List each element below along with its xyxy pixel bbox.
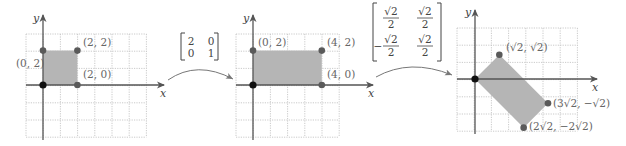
matrix-entry: 0 [208,35,215,47]
fraction-denominator: 2 [388,18,395,30]
vertex-label: (2, 2) [83,36,111,48]
matrix-fraction-entry: √22 [417,5,433,30]
matrix-fraction-entry: √22 [417,33,433,58]
vertex-point [520,124,527,131]
scale-matrix: 2001 [168,33,233,80]
origin-point [471,75,478,82]
x-axis-label: x [160,87,167,100]
vertex-label: (0, 2) [16,57,44,69]
coordinate-panels: xy(2, 0)(2, 2)(0, 2)xy(4, 0)(4, 2)(0, 2)… [16,6,610,140]
rotation-matrix: √22√22√22−√22 [373,3,452,77]
vertex-point [496,51,503,58]
transformed-region [253,51,322,85]
y-axis-label: y [242,12,250,25]
left-bracket [373,3,377,61]
x-axis-label: x [368,87,375,100]
transform-arrow-icon [376,67,452,77]
linear-transformation-figure: xy(2, 0)(2, 2)(0, 2)xy(4, 0)(4, 2)(0, 2)… [0,0,626,146]
panel-original-square: xy(2, 0)(2, 2)(0, 2) [16,12,167,140]
minus-sign: − [374,40,383,52]
vertex-label: (4, 2) [327,36,355,48]
y-axis-label: y [464,6,472,19]
right-bracket [437,3,441,61]
vertex-label: (√2, √2) [506,41,548,53]
matrix-entry: 2 [188,35,195,47]
panel-stretched-rectangle: xy(4, 0)(4, 2)(0, 2) [236,12,375,140]
fraction-numerator: √2 [384,33,397,45]
vertex-point [319,82,326,89]
vertex-label: (3√2, −√2) [553,97,610,109]
matrix-fraction-entry: √22− [374,33,399,58]
fraction-numerator: √2 [418,5,431,17]
vertex-point [319,47,326,54]
fraction-numerator: √2 [418,33,431,45]
matrix-entry: 1 [208,47,215,59]
vertex-point [250,47,257,54]
vertex-label: (2, 0) [83,68,111,80]
transform-arrow-icon [168,70,233,80]
vertex-point [74,47,81,54]
fraction-denominator: 2 [422,46,429,58]
transformed-region [475,55,548,128]
fraction-denominator: 2 [422,18,429,30]
origin-point [249,81,256,88]
transformation-diagram: xy(2, 0)(2, 2)(0, 2)xy(4, 0)(4, 2)(0, 2)… [0,0,626,146]
vertex-label: (2√2, −2√2) [529,120,593,132]
right-bracket [214,33,218,60]
vertex-point [74,82,81,89]
transformed-region [43,51,77,85]
vertex-point [545,100,552,107]
left-bracket [181,33,185,60]
vertex-label: (4, 0) [327,68,355,80]
origin-point [39,81,46,88]
panel-rotated-rectangle: xy(√2, √2)(3√2, −√2)(2√2, −2√2) [457,6,610,134]
fraction-numerator: √2 [384,5,397,17]
vertex-point [40,47,47,54]
x-axis-label: x [592,81,599,94]
fraction-denominator: 2 [388,46,395,58]
vertex-label: (0, 2) [258,36,286,48]
matrix-entry: 0 [188,47,195,59]
matrix-fraction-entry: √22 [383,5,399,30]
y-axis-label: y [32,12,40,25]
